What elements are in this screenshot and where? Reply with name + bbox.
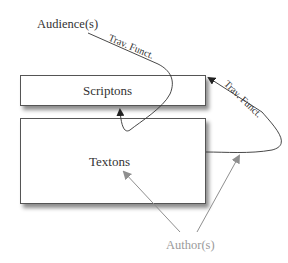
authors-label: Author(s) [166,238,215,253]
edges-layer [0,0,288,263]
diagram-canvas: Scriptons Textons Trav. Funct. Trav. Fun… [0,0,288,263]
edge-textons-to-scriptons [206,78,281,153]
audience-label: Audience(s) [37,17,98,32]
edge-authors-to-right-loop [197,156,239,232]
edge-authors-to-textons-left [124,172,180,232]
